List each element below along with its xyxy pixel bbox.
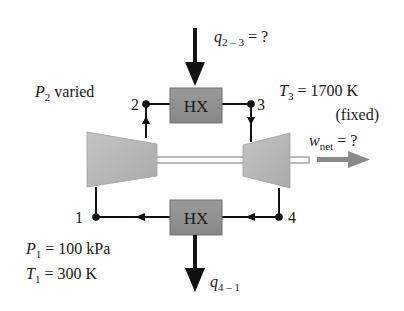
heat-exchanger-top: HX (170, 88, 222, 123)
state-label-3: 3 (257, 96, 265, 113)
heat-input-label: q2 – 3 = ? (214, 28, 268, 48)
state-node-4 (275, 213, 283, 221)
state-node-1 (92, 213, 100, 221)
brayton-cycle-diagram: HX 2 3 HX 1 4 q2 – 3 = ? P2 vari (0, 0, 404, 311)
heat-input-arrow-icon (185, 28, 205, 86)
flow-arrow-left-icon (135, 213, 145, 221)
flow-arrow-down-icon (247, 117, 255, 125)
t3-label: T3 = 1700 K (279, 82, 358, 102)
p1-label: P1 = 100 kPa (25, 240, 110, 260)
flow-arrow-left-icon (245, 213, 255, 221)
hx-top-label: HX (184, 97, 209, 116)
t1-label: T1 = 300 K (26, 265, 97, 285)
hx-bottom-label: HX (184, 209, 209, 228)
state-label-1: 1 (75, 209, 83, 226)
flow-arrow-up-icon (142, 116, 150, 124)
compressor (87, 132, 157, 187)
t3-fixed-note: (fixed) (335, 106, 379, 124)
heat-rejection-label: q4 – 1 (210, 273, 240, 293)
state-node-3 (247, 100, 255, 108)
state-node-2 (142, 100, 150, 108)
heat-exchanger-bottom: HX (170, 200, 222, 235)
state-label-4: 4 (288, 209, 296, 226)
heat-rejection-arrow-icon (185, 235, 205, 292)
p2-varied-label: P2 varied (34, 83, 94, 103)
state-label-2: 2 (131, 96, 139, 113)
net-work-arrow-icon (317, 151, 370, 168)
net-work-label: wnet = ? (309, 132, 357, 152)
